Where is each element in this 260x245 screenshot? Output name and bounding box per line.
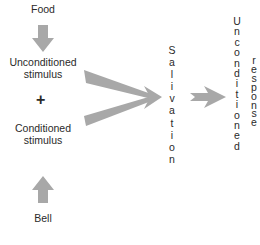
- response-label: response: [248, 56, 260, 127]
- arrow-up-icon: [32, 176, 54, 203]
- letter: l: [166, 68, 178, 80]
- unconditioned-stimulus-label: Unconditioned stimulus: [0, 56, 86, 80]
- letter: S: [166, 44, 178, 56]
- letter: d: [231, 141, 243, 151]
- unconditioned-label: Unconditioned: [231, 16, 243, 151]
- letter: v: [166, 92, 178, 104]
- conditioned-stimulus-label: Conditioned stimulus: [0, 122, 86, 146]
- bell-label: Bell: [20, 212, 66, 224]
- letter: e: [248, 118, 260, 127]
- arrow-right-icon: [190, 86, 226, 108]
- food-label: Food: [20, 3, 66, 15]
- wedge-lower: [84, 96, 154, 126]
- arrow-down-icon: [32, 25, 54, 52]
- letter: i: [166, 80, 178, 92]
- letter: t: [166, 117, 178, 129]
- letter: o: [166, 141, 178, 153]
- letter: i: [166, 129, 178, 141]
- plus-icon: +: [36, 91, 45, 109]
- letter: a: [166, 56, 178, 68]
- letter: n: [166, 153, 178, 165]
- salivation-label: Salivation: [166, 44, 178, 165]
- wedge-upper: [84, 70, 154, 99]
- letter: a: [166, 104, 178, 116]
